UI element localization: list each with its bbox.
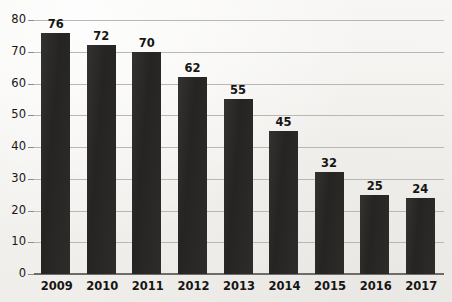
bar-value-label: 72	[81, 29, 121, 43]
y-tick-label: 0	[0, 266, 26, 280]
x-tick-label: 2014	[262, 279, 308, 293]
bar[interactable]	[87, 45, 116, 274]
x-axis: 200920102011201220132014201520162017	[34, 279, 444, 297]
bar-chart: 01020304050607080 767270625545322524 200…	[0, 0, 452, 302]
x-tick-label: 2015	[307, 279, 353, 293]
y-tick-label: 50	[0, 107, 26, 121]
y-tick-label: 30	[0, 171, 26, 185]
bar-value-label: 55	[218, 83, 258, 97]
bar-value-label: 32	[309, 156, 349, 170]
bar[interactable]	[132, 52, 161, 274]
bar[interactable]	[360, 195, 389, 274]
x-tick-label: 2012	[170, 279, 216, 293]
y-tick-label: 40	[0, 139, 26, 153]
bar[interactable]	[406, 198, 435, 274]
bar[interactable]	[41, 33, 70, 274]
bar[interactable]	[178, 77, 207, 274]
bar-value-label: 45	[264, 115, 304, 129]
y-tick-label: 20	[0, 203, 26, 217]
bar-value-label: 62	[172, 61, 212, 75]
x-tick-label: 2013	[216, 279, 262, 293]
bar-value-label: 25	[355, 179, 395, 193]
bar[interactable]	[224, 99, 253, 274]
bar[interactable]	[315, 172, 344, 274]
y-tick-label: 10	[0, 234, 26, 248]
bar-value-label: 76	[36, 17, 76, 31]
y-axis: 01020304050607080	[0, 0, 34, 302]
y-tick-label: 80	[0, 12, 26, 26]
x-tick-label: 2010	[79, 279, 125, 293]
bar-value-label: 70	[127, 36, 167, 50]
x-tick-label: 2009	[34, 279, 80, 293]
plot-area: 767270625545322524	[34, 20, 444, 274]
bar-value-label: 24	[400, 182, 440, 196]
x-tick-label: 2017	[398, 279, 444, 293]
bar[interactable]	[269, 131, 298, 274]
x-tick-label: 2016	[353, 279, 399, 293]
x-tick-label: 2011	[125, 279, 171, 293]
gridline	[34, 20, 444, 21]
y-tick-label: 70	[0, 44, 26, 58]
y-tick-label: 60	[0, 76, 26, 90]
